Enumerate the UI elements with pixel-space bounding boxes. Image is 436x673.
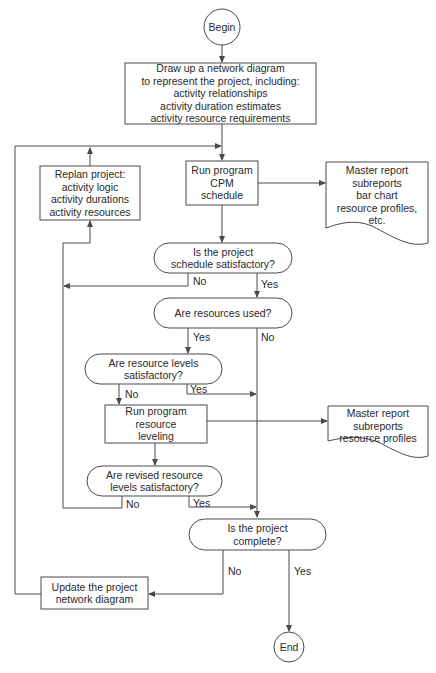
end-label: End	[280, 641, 299, 654]
resources-used-no-label: No	[261, 331, 274, 343]
report-cpm-line: Master report	[346, 164, 408, 177]
decision-line: satisfactory?	[124, 369, 183, 382]
schedule-no-label: No	[193, 275, 206, 287]
run-leveling-box: Run program resource leveling	[105, 405, 207, 443]
decision-resources-used: Are resources used?	[154, 298, 292, 328]
report-cpm-line: resource profiles,	[337, 202, 418, 215]
report-cpm-line: bar chart	[356, 189, 397, 202]
draw-network-box: Draw up a network diagram to represent t…	[125, 63, 316, 124]
decision-line: Are resources used?	[175, 307, 272, 320]
decision-line: Are revised resource	[106, 469, 203, 482]
decision-line: schedule satisfactory?	[171, 258, 275, 271]
replan-line: activity durations	[51, 193, 129, 206]
decision-line: Is the project	[193, 246, 253, 259]
complete-yes-label: Yes	[294, 565, 311, 577]
run-cpm-line: schedule	[201, 189, 243, 202]
report-leveling-line: resource profiles	[339, 432, 417, 445]
decision-project-complete: Is the project complete?	[189, 519, 326, 550]
complete-no-label: No	[228, 565, 241, 577]
report-leveling-line: Master report	[347, 407, 409, 420]
end-node: End	[274, 632, 304, 662]
resource-levels-no-label: No	[125, 388, 138, 400]
report-cpm-document: Master report subreports bar chart resou…	[326, 164, 428, 228]
replan-line: Replan project:	[55, 168, 126, 181]
decision-resource-levels: Are resource levels satisfactory?	[85, 354, 222, 384]
report-leveling-line: subreports	[353, 420, 403, 433]
replan-line: activity logic	[62, 181, 119, 194]
run-cpm-box: Run program CPM schedule	[186, 161, 258, 205]
update-network-line: Update the project	[52, 581, 138, 594]
draw-network-line: to represent the project, including:	[141, 75, 299, 88]
decision-line: Are resource levels	[109, 357, 199, 370]
run-cpm-line: CPM	[210, 177, 233, 190]
update-network-line: network diagram	[56, 593, 134, 606]
revised-levels-no-label: No	[126, 498, 139, 510]
replan-box: Replan project: activity logic activity …	[40, 166, 140, 220]
report-cpm-line: subreports	[352, 177, 402, 190]
update-network-box: Update the project network diagram	[41, 577, 148, 609]
decision-line: Is the project	[227, 522, 287, 535]
report-leveling-document: Master report subreports resource profil…	[328, 407, 428, 445]
replan-line: activity resources	[49, 206, 130, 219]
draw-network-line: activity resource requirements	[150, 112, 290, 125]
report-cpm-line: etc.	[369, 214, 386, 227]
run-leveling-line: leveling	[138, 430, 174, 443]
resource-levels-yes-label: Yes	[190, 383, 207, 395]
run-leveling-line: resource	[136, 418, 177, 431]
draw-network-line: Draw up a network diagram	[156, 62, 284, 75]
decision-line: complete?	[233, 535, 281, 548]
resources-used-yes-label: Yes	[193, 331, 210, 343]
draw-network-line: activity duration estimates	[160, 100, 281, 113]
draw-network-line: activity relationships	[174, 87, 268, 100]
begin-node: Begin	[204, 9, 240, 45]
run-leveling-line: Run program	[125, 405, 186, 418]
decision-revised-levels: Are revised resource levels satisfactory…	[87, 466, 222, 496]
decision-schedule-satisfactory: Is the project schedule satisfactory?	[154, 243, 292, 273]
schedule-yes-label: Yes	[261, 278, 278, 290]
decision-line: levels satisfactory?	[110, 481, 199, 494]
revised-levels-yes-label: Yes	[193, 497, 210, 509]
run-cpm-line: Run program	[191, 164, 252, 177]
begin-label: Begin	[209, 21, 236, 34]
